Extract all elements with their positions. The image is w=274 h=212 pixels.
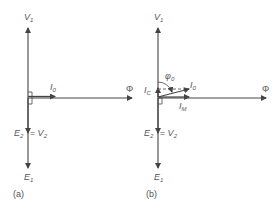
e2-v2-label: E2 = V2 <box>144 128 178 139</box>
i0-phasor <box>158 89 189 97</box>
phi-label: Φ <box>262 84 269 94</box>
v1-label: V1 <box>24 12 33 23</box>
phasor-diagram: V1 I0 Φ E2 = V2 E1 (a) V1 φ0 I0 IC IM Φ … <box>0 0 274 212</box>
panel-b: V1 φ0 I0 IC IM Φ E2 = V2 E1 (b) <box>144 12 269 199</box>
i0-label: I0 <box>190 80 197 91</box>
e1-label: E1 <box>24 172 33 183</box>
e2-v2-label: E2 = V2 <box>14 128 48 139</box>
panel-a: V1 I0 Φ E2 = V2 E1 (a) <box>13 12 133 199</box>
phi0-label: φ0 <box>165 71 175 82</box>
caption-b: (b) <box>146 189 157 199</box>
i0-label: I0 <box>50 82 57 93</box>
right-angle-marker <box>158 98 162 104</box>
phi0-angle-arc <box>158 82 172 92</box>
phi-label: Φ <box>126 84 133 94</box>
caption-a: (a) <box>13 189 24 199</box>
im-label: IM <box>179 101 187 112</box>
e1-label: E1 <box>154 172 163 183</box>
v1-label: V1 <box>154 12 163 23</box>
ic-label: IC <box>144 85 152 96</box>
